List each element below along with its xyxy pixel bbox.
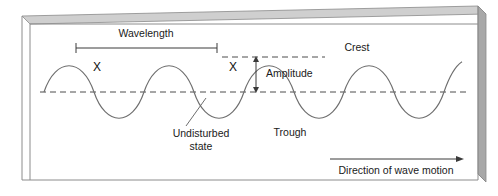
frame-top-bevel <box>22 6 486 24</box>
amplitude-label: Amplitude <box>266 67 313 79</box>
undisturbed-state-label-line1: Undisturbed <box>173 127 230 139</box>
frame-right-bevel <box>478 6 486 182</box>
direction-arrowhead <box>456 156 464 162</box>
wavelength-label: Wavelength <box>118 27 173 39</box>
direction-of-wave-motion-label: Direction of wave motion <box>339 164 454 176</box>
trough-label: Trough <box>274 126 307 138</box>
crest-label: Crest <box>344 41 369 53</box>
x-mark-first: X <box>93 60 101 74</box>
x-mark-second: X <box>229 60 237 74</box>
undisturbed-state-label-line2: state <box>190 140 213 152</box>
wave-curve <box>44 62 462 118</box>
frame-face-outline <box>22 6 478 180</box>
wave-diagram-canvas: Wavelength Amplitude X X Crest Trough Un… <box>0 0 498 196</box>
diagram-frame <box>22 6 486 182</box>
amplitude-measure: Amplitude <box>253 56 313 93</box>
direction-of-motion-annotation: Direction of wave motion <box>330 156 464 176</box>
wave-diagram-figure: Wavelength Amplitude X X Crest Trough Un… <box>0 0 498 196</box>
undisturbed-state-leader-line <box>186 98 206 126</box>
wavelength-measure: Wavelength <box>76 27 217 53</box>
